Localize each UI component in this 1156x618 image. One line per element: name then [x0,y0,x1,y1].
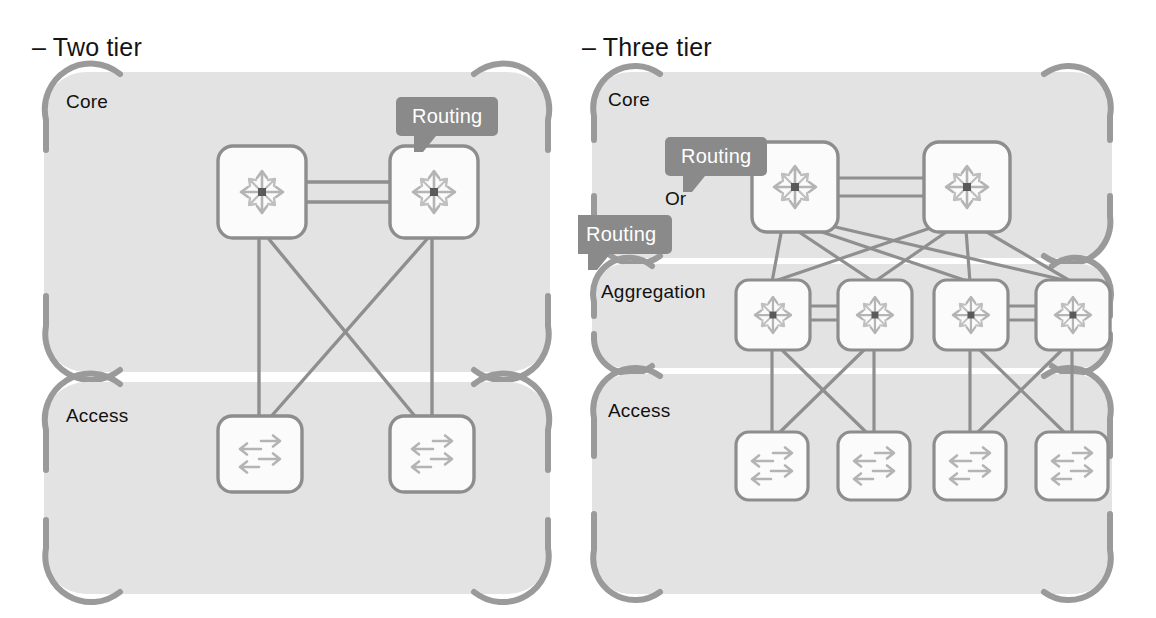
diagram-canvas: – Two tier Core Access Routing – Three t… [0,0,1156,618]
node-s3-switch[interactable] [934,432,1006,500]
callout-routing-core: Routing [396,97,498,136]
zone-label-core: Core [66,91,108,113]
callout-routing-aggregation-clip: Routing [578,210,738,270]
network-topology-svg [0,0,1156,618]
zone-label-core: Core [608,89,650,111]
node-c2-router[interactable] [390,146,478,238]
panel-title-two-tier: – Two tier [32,33,142,62]
node-g4-router[interactable] [1036,280,1110,350]
node-s2-switch[interactable] [838,432,910,500]
zone-label-aggregation: Aggregation [601,281,706,303]
panel-two-tier [44,64,550,603]
node-c2-router[interactable] [924,142,1010,232]
node-a1-switch[interactable] [218,416,302,492]
callout-routing-core: Routing [665,137,767,176]
node-c1-router[interactable] [218,146,306,238]
node-s4-switch[interactable] [1036,432,1108,500]
panel-title-three-tier: – Three tier [582,33,712,62]
callout-routing-core-tail [683,176,705,192]
node-a2-switch[interactable] [390,416,474,492]
callout-routing-aggregation-tail [588,254,610,270]
node-g2-router[interactable] [838,280,912,350]
zone-label-access: Access [608,400,670,422]
node-g1-router[interactable] [736,280,810,350]
callout-routing-core-tail [414,136,436,152]
callout-routing-aggregation: Routing [578,215,672,254]
node-s1-switch[interactable] [736,432,808,500]
or-label: Or [665,188,686,210]
zone-label-access: Access [66,405,128,427]
node-g3-router[interactable] [934,280,1008,350]
